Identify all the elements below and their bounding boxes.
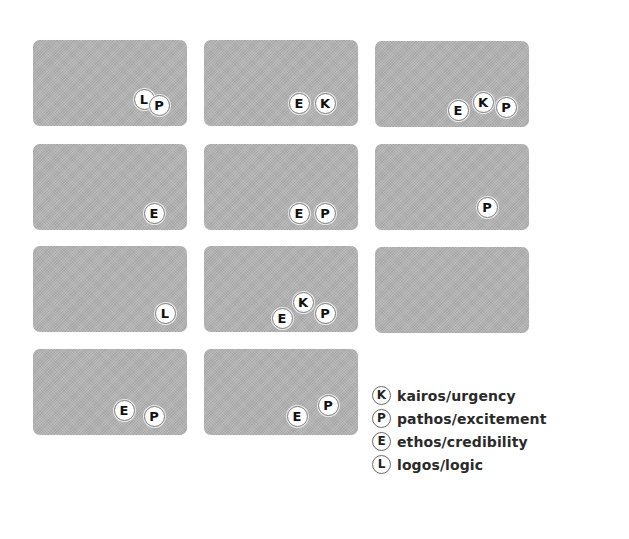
badge-pathos-icon: P [477, 197, 498, 218]
legend-label: ethos/credibility [397, 434, 528, 450]
badge-ethos-icon: E [289, 93, 310, 114]
kairos-icon: K [372, 386, 391, 405]
badge-kairos-icon: K [473, 92, 494, 113]
badge-ethos-icon: E [144, 203, 165, 224]
card-11 [204, 349, 358, 435]
badge-pathos-icon: P [144, 406, 165, 427]
legend-label: pathos/excitement [397, 411, 546, 427]
badge-ethos-icon: E [289, 203, 310, 224]
badge-ethos-icon: E [114, 400, 135, 421]
card-6 [375, 144, 529, 230]
card-9 [375, 247, 529, 333]
badge-logos-icon: L [155, 303, 176, 324]
legend-label: logos/logic [397, 457, 483, 473]
legend: K kairos/urgency P pathos/excitement E e… [372, 384, 546, 476]
card-2 [204, 40, 358, 126]
pathos-icon: P [372, 409, 391, 428]
legend-item-ethos: E ethos/credibility [372, 430, 546, 453]
ethos-icon: E [372, 432, 391, 451]
card-10 [33, 349, 187, 435]
legend-item-kairos: K kairos/urgency [372, 384, 546, 407]
badge-pathos-icon: P [318, 395, 339, 416]
badge-ethos-icon: E [272, 308, 293, 329]
badge-pathos-icon: P [315, 203, 336, 224]
badge-ethos-icon: E [287, 406, 308, 427]
legend-item-pathos: P pathos/excitement [372, 407, 546, 430]
legend-item-logos: L logos/logic [372, 453, 546, 476]
badge-kairos-icon: K [293, 292, 314, 313]
badge-kairos-icon: K [315, 93, 336, 114]
badge-pathos-icon: P [496, 97, 517, 118]
badge-pathos-icon: P [149, 95, 170, 116]
legend-label: kairos/urgency [397, 388, 516, 404]
badge-pathos-icon: P [315, 303, 336, 324]
badge-ethos-icon: E [448, 100, 469, 121]
logos-icon: L [372, 455, 391, 474]
